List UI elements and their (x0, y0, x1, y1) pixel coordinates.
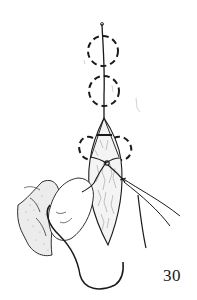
forceps (120, 178, 180, 226)
suture-thread-right (138, 195, 146, 248)
figure-number: 30 (163, 266, 181, 286)
surgical-illustration (0, 0, 197, 300)
hand (18, 178, 94, 256)
